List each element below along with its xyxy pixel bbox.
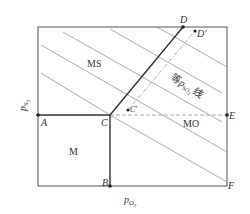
label-a: A <box>40 117 48 128</box>
y-axis-sub2: 2 <box>26 99 31 102</box>
point-b <box>108 184 112 188</box>
phase-boundaries <box>38 27 183 186</box>
iso-line <box>110 115 227 182</box>
label-b: B <box>102 177 108 188</box>
x-axis-label: pO2 <box>123 194 137 208</box>
iso-line <box>41 73 110 115</box>
label-d-prime: D′ <box>196 28 207 39</box>
region-m-label: M <box>69 146 78 157</box>
y-axis-label: pS2 <box>17 99 31 112</box>
svg-text:pS2: pS2 <box>17 99 31 112</box>
label-c-prime: C′ <box>130 105 137 114</box>
phase-diagram: A C B D D′ C′ E F MS MO M 等pSO2线 pO2 pS2 <box>0 0 250 214</box>
boundary-c-d <box>110 27 183 115</box>
region-mo-label: MO <box>183 118 199 129</box>
iso-label-suffix: 线 <box>191 85 206 101</box>
label-c: C <box>101 117 108 128</box>
point-a <box>36 113 40 117</box>
region-ms-label: MS <box>87 58 101 69</box>
x-axis-sub2: 2 <box>134 203 137 208</box>
label-e: E <box>228 110 235 121</box>
svg-text:等pSO2线: 等pSO2线 <box>168 71 206 103</box>
label-f: F <box>227 180 235 191</box>
c-prime-d-prime-line <box>128 31 195 110</box>
iso-line <box>157 27 227 67</box>
point-d <box>181 25 185 29</box>
iso-line <box>63 32 222 122</box>
iso-pso2-label: 等pSO2线 <box>168 71 206 103</box>
label-d: D <box>179 14 188 25</box>
